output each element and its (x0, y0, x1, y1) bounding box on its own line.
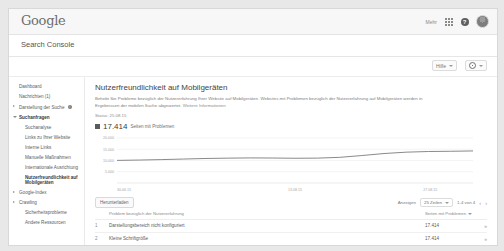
sidebar-item-label: Links zu Ihrer Website (25, 135, 70, 140)
sidebar-item-label: Dashboard (19, 84, 41, 89)
column-action (473, 211, 487, 219)
sidebar: Dashboard Nachrichten (1) Darstellung de… (9, 77, 85, 246)
topbar-actions: Mehr ? (426, 9, 489, 34)
svg-text:27.08.15: 27.08.15 (423, 188, 437, 192)
chevron-right-icon (13, 191, 15, 193)
pagination-show-label: Anzeigen (398, 200, 416, 205)
row-details-icon[interactable]: » (473, 219, 487, 232)
svg-text:13.08.15: 13.08.15 (288, 188, 302, 192)
main-description: Behebt Sie Probleme bezüglich der Nutzer… (95, 96, 425, 109)
chevron-down-icon (449, 65, 453, 67)
issue-count: 17.414 Seiten mit Problemen (95, 122, 487, 131)
chevron-left-icon[interactable]: ‹ (479, 200, 481, 206)
sidebar-item-label: Suchanfragen (19, 115, 50, 120)
column-problem[interactable]: Problem bezüglich der Nutzererfahrung (109, 211, 425, 219)
page-title: Search Console (21, 40, 74, 49)
sidebar-item-label: Interne Links (25, 145, 51, 150)
rows-per-page-select[interactable]: 25 Zeilen (420, 198, 453, 207)
sidebar-item-manuelle-massnahmen[interactable]: Manuelle Maßnahmen (9, 152, 84, 162)
topbar-more-label[interactable]: Mehr (426, 19, 437, 25)
search-console-window: Google Mehr ? Search Console Hilfe (8, 8, 498, 246)
avatar[interactable] (476, 15, 489, 28)
sidebar-item-suchanalyse[interactable]: Suchanalyse (9, 122, 84, 132)
chevron-right-icon (13, 105, 15, 107)
chevron-down-icon (479, 65, 483, 67)
sidebar-item-dashboard[interactable]: Dashboard (9, 82, 84, 92)
issues-table: Problem bezüglich der Nutzererfahrung Se… (95, 211, 487, 246)
svg-text:15.000: 15.000 (103, 148, 114, 152)
row-pages: 17.414 (425, 219, 473, 232)
sidebar-item-label: Darstellung der Suche (19, 105, 64, 110)
table-row[interactable]: 2 Kleine Schriftgröße 17.414 » (95, 232, 487, 245)
sidebar-item-label: Andere Ressourcen (25, 220, 66, 225)
help-icon[interactable]: ? (460, 17, 469, 26)
apps-grid-icon[interactable] (444, 17, 453, 26)
table-row[interactable]: 1 Darstellungsbereich nicht konfiguriert… (95, 219, 487, 232)
sidebar-item-andere-ressourcen[interactable]: Andere Ressourcen (9, 218, 84, 228)
sidebar-item-nachrichten[interactable]: Nachrichten (1) (9, 92, 84, 102)
chart-svg: 5.00010.00015.00020.00030.06.1513.08.152… (95, 135, 477, 193)
pagination-range: 1-4 von 4 (457, 200, 475, 205)
more-info-link[interactable]: Weitere Informationen (183, 103, 226, 108)
row-problem[interactable]: Darstellungsbereich nicht konfiguriert (109, 219, 425, 232)
sidebar-item-label: Nachrichten (1) (19, 94, 50, 99)
sidebar-item-label: Nutzerfreundlichkeit auf Mobilgeräten (25, 175, 78, 185)
row-details-icon[interactable]: » (473, 232, 487, 245)
sidebar-item-label: Google-Index (19, 190, 47, 195)
google-logo[interactable]: Google (21, 13, 65, 28)
table-header-row: Problem bezüglich der Nutzererfahrung Se… (95, 211, 487, 219)
sidebar-item-darstellung-der-suche[interactable]: Darstellung der Suche i (9, 102, 84, 112)
column-pages-label: Seiten mit Problemen (425, 211, 466, 216)
row-index: 1 (95, 219, 109, 232)
table-toolbar: Herunterladen Anzeigen 25 Zeilen 1-4 von… (95, 197, 487, 208)
chevron-down-icon (13, 116, 17, 118)
column-index (95, 211, 109, 219)
column-pages[interactable]: Seiten mit Problemen (425, 211, 473, 219)
svg-text:10.000: 10.000 (103, 159, 114, 163)
sidebar-item-label: Sicherheitsprobleme (25, 210, 67, 215)
svg-text:20.000: 20.000 (103, 137, 114, 141)
issue-count-label: Seiten mit Problemen (130, 124, 174, 129)
rows-per-page-value: 25 Zeilen (424, 200, 442, 205)
main-heading: Nutzerfreundlichkeit auf Mobilgeräten (95, 83, 487, 92)
issue-count-value: 17.414 (103, 122, 127, 131)
sidebar-item-suchanfragen[interactable]: Suchanfragen (9, 112, 84, 122)
help-dropdown-label: Hilfe (436, 63, 446, 69)
settings-dropdown[interactable] (465, 60, 487, 71)
help-dropdown[interactable]: Hilfe (432, 60, 457, 71)
description-text: Behebt Sie Probleme bezüglich der Nutzer… (95, 96, 422, 108)
toolbar: Hilfe (9, 57, 497, 77)
sidebar-item-links-zu-ihrer-website[interactable]: Links zu Ihrer Website (9, 132, 84, 142)
usability-chart: 5.00010.00015.00020.00030.06.1513.08.152… (95, 135, 487, 193)
row-problem[interactable]: Kleine Schriftgröße (109, 232, 425, 245)
svg-text:5.000: 5.000 (105, 170, 114, 174)
sidebar-item-sicherheitsprobleme[interactable]: Sicherheitsprobleme (9, 208, 84, 218)
content-area: Dashboard Nachrichten (1) Darstellung de… (9, 77, 497, 246)
sidebar-item-google-index[interactable]: Google-Index (9, 188, 84, 198)
console-title-bar: Search Console (9, 35, 497, 57)
row-pages: 17.414 (425, 232, 473, 245)
sidebar-item-nutzerfreundlichkeit-mobilgeraete[interactable]: Nutzerfreundlichkeit auf Mobilgeräten (9, 173, 84, 188)
pagination: Anzeigen 25 Zeilen 1-4 von 4 ‹ › (398, 198, 487, 207)
status-value: 25.08.15 (110, 113, 127, 118)
chevron-down-icon (445, 202, 449, 204)
sort-descending-icon (468, 213, 472, 215)
sidebar-item-internationale-ausrichtung[interactable]: Internationale Ausrichtung (9, 163, 84, 173)
download-button[interactable]: Herunterladen (95, 197, 134, 208)
status-label: Status: (95, 113, 108, 118)
sidebar-item-label: Manuelle Maßnahmen (25, 155, 71, 160)
sidebar-item-label: Suchanalyse (25, 125, 51, 130)
main-panel: Nutzerfreundlichkeit auf Mobilgeräten Be… (85, 77, 497, 246)
sidebar-item-crawling[interactable]: Crawling (9, 198, 84, 208)
info-icon[interactable]: i (68, 105, 72, 109)
chevron-right-icon (13, 201, 15, 203)
row-index: 2 (95, 232, 109, 245)
chevron-right-icon[interactable]: › (485, 200, 487, 206)
sidebar-item-label: Crawling (19, 200, 37, 205)
sidebar-item-label: Internationale Ausrichtung (25, 165, 78, 170)
google-topbar: Google Mehr ? (9, 9, 497, 35)
toolbar-actions: Hilfe (432, 60, 487, 71)
sidebar-item-interne-links[interactable]: Interne Links (9, 142, 84, 152)
status-line: Status: 25.08.15 (95, 113, 487, 118)
legend-swatch-icon (95, 124, 100, 129)
